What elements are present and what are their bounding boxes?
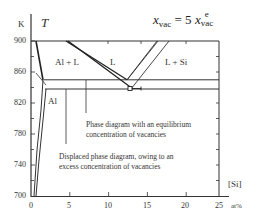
formula-lhs-sub: vac (159, 19, 172, 29)
x-tick-15: 15 (143, 202, 151, 210)
region-l: L (110, 58, 116, 67)
annotation-displaced-2: excess concentration of vacancies (59, 163, 160, 171)
y-tick-700: 700 (14, 192, 26, 200)
x-symbol-label: [Si] (228, 180, 242, 189)
vacancy-formula: xvac = 5 xevac (153, 12, 221, 29)
formula-eq: = 5 (175, 12, 192, 27)
liquidus-si-displaced-b (131, 41, 169, 89)
region-l-si: L + Si (165, 58, 187, 67)
y-tick-740: 740 (14, 161, 26, 169)
x-ticks (70, 192, 186, 196)
eutectic-point-marker (128, 87, 132, 91)
formula-rhs-sub: vac (201, 18, 214, 28)
y-tick-860: 860 (14, 68, 26, 76)
y-tick-820: 820 (14, 99, 26, 107)
x-tick-0: 0 (29, 202, 33, 210)
annotation-equilibrium-1: Phase diagram with an equilibrium (86, 121, 191, 129)
y-unit-label: K (18, 20, 25, 29)
region-al-l: Al + L (55, 58, 79, 67)
annotation-equilibrium-2: concentration of vacancies (86, 131, 166, 139)
y-symbol-label: T (41, 16, 48, 29)
x-tick-25: 25 (215, 202, 223, 210)
y-tick-900: 900 (14, 37, 26, 45)
x-tick-5: 5 (67, 202, 71, 210)
solidus-connector (36, 73, 46, 85)
phase-diagram (0, 0, 260, 219)
y-tick-780: 780 (14, 130, 26, 138)
region-al: Al (48, 97, 57, 106)
x-tick-20: 20 (181, 202, 189, 210)
x-tick-10: 10 (104, 202, 112, 210)
x-unit-label: at% (231, 203, 242, 210)
annotation-displaced-1: Displaced phase diagram, owing to an (59, 153, 174, 161)
